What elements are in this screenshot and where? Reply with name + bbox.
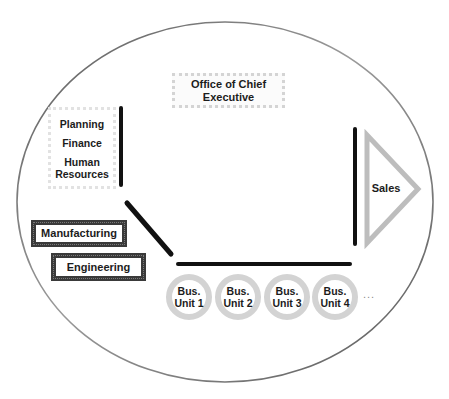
business-unit-4-label: Bus. Unit 4 [320,285,350,309]
staff-item-planning: Planning [60,118,104,130]
business-unit-1: Bus. Unit 1 [166,274,212,320]
business-unit-4: Bus. Unit 4 [312,274,358,320]
manufacturing-box: Manufacturing [31,220,127,247]
staff-functions-box: Planning Finance Human Resources [48,107,116,189]
staff-item-finance: Finance [62,137,102,149]
business-unit-3: Bus. Unit 3 [264,274,310,320]
more-units-ellipsis: ... [363,288,375,300]
diagonal-connector [127,203,171,254]
business-unit-2-label: Bus. Unit 2 [223,285,253,309]
business-unit-2: Bus. Unit 2 [215,274,261,320]
org-diagram: Office of Chief Executive Planning Finan… [0,0,449,399]
manufacturing-label: Manufacturing [41,227,117,240]
staff-item-human-resources: Human Resources [52,156,112,180]
engineering-box: Engineering [51,253,146,281]
office-of-chief-executive-box: Office of Chief Executive [172,73,285,108]
engineering-label: Engineering [67,261,131,274]
business-unit-1-label: Bus. Unit 1 [174,285,204,309]
sales-label: Sales [366,182,406,195]
office-label: Office of Chief Executive [175,78,282,104]
business-unit-3-label: Bus. Unit 3 [272,285,302,309]
diagram-graphics [0,0,449,399]
